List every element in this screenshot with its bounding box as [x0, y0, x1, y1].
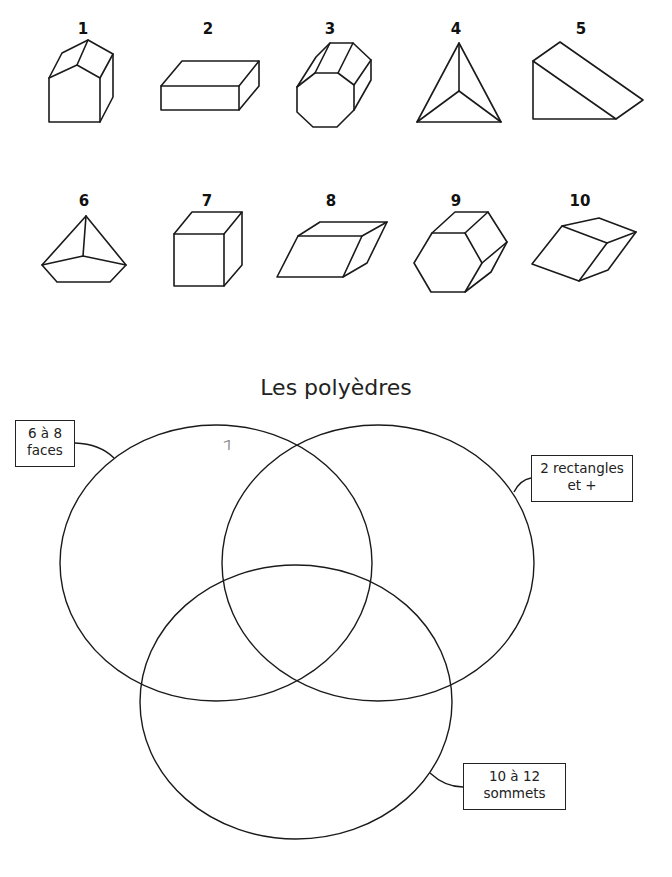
shape-number-6: 6 [79, 192, 89, 210]
venn-label-rectangles-line2: et + [532, 477, 632, 494]
venn-label-rectangles: 2 rectangles et + [531, 455, 633, 502]
shape-6-pentagonal-pyramid-icon [42, 216, 126, 282]
venn-label-faces-line2: faces [16, 442, 74, 459]
shape-3-octagonal-prism-icon [297, 43, 371, 127]
venn-label-faces: 6 à 8 faces [15, 420, 75, 467]
faces-label-connector [75, 443, 114, 458]
venn-set-rectangles-ellipse [222, 425, 534, 701]
shape-8-parallelepiped-icon [277, 222, 387, 277]
venn-label-rectangles-line1: 2 rectangles [532, 460, 632, 477]
shape-number-4: 4 [451, 20, 461, 38]
shape-10-rhombic-prism-icon [532, 218, 636, 281]
venn-set-faces-ellipse [60, 425, 372, 701]
shape-number-1: 1 [78, 20, 88, 38]
shape-number-5: 5 [576, 20, 586, 38]
shape-7-cube-icon [174, 212, 242, 286]
vertices-label-connector [430, 773, 463, 787]
shape-9-hexagonal-prism-icon [414, 212, 507, 292]
shape-2-rectangular-prism-icon [161, 61, 259, 110]
shape-5-triangular-prism-icon [533, 42, 643, 119]
shape-number-2: 2 [203, 20, 213, 38]
venn-label-faces-line1: 6 à 8 [16, 425, 74, 442]
shape-1-pentagonal-prism-icon [49, 40, 113, 122]
handwritten-mark: 7 [222, 437, 235, 454]
shape-number-7: 7 [202, 192, 212, 210]
shape-number-3: 3 [325, 20, 335, 38]
venn-title: Les polyèdres [260, 375, 411, 400]
shape-4-triangular-pyramid-icon [417, 43, 501, 122]
venn-label-vertices: 10 à 12 sommets [463, 763, 566, 810]
venn-label-vertices-line1: 10 à 12 [464, 768, 565, 785]
rectangles-label-connector [514, 478, 531, 492]
venn-label-vertices-line2: sommets [464, 785, 565, 802]
shape-number-9: 9 [451, 192, 461, 210]
polyhedra-worksheet: 1 2 3 4 5 6 7 8 9 10 [0, 0, 672, 877]
shape-number-8: 8 [326, 192, 336, 210]
venn-set-vertices-ellipse [140, 565, 452, 839]
shape-number-10: 10 [570, 192, 591, 210]
